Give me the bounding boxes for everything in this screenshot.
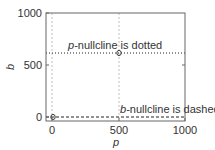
x-axis-label: p bbox=[112, 136, 119, 148]
nullcline-chart: 1000 500 0 0 500 1000 p b p-nullcline is… bbox=[0, 0, 215, 150]
b-nullcline-annotation: b-nullcline is dashed bbox=[120, 103, 215, 115]
xtick-label-1000: 1000 bbox=[173, 124, 197, 136]
ytick-label-0: 0 bbox=[36, 111, 42, 123]
y-axis-label: b bbox=[4, 64, 16, 70]
xtick-label-0: 0 bbox=[49, 124, 55, 136]
ytick-label-1000: 1000 bbox=[18, 7, 42, 19]
xtick-label-500: 500 bbox=[110, 124, 128, 136]
p-nullcline-annotation-rest: -nullcline is dotted bbox=[74, 39, 162, 51]
p-nullcline-annotation-italic: p bbox=[67, 39, 74, 51]
b-nullcline-annotation-rest: -nullcline is dashed bbox=[126, 103, 215, 115]
p-nullcline-annotation: p-nullcline is dotted bbox=[67, 39, 162, 51]
ytick-label-500: 500 bbox=[24, 59, 42, 71]
